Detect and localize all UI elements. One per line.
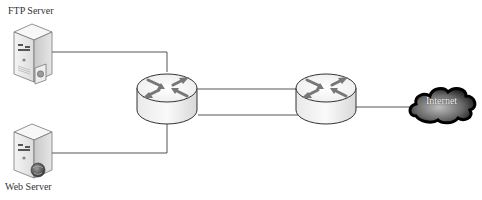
globe-icon [31, 163, 45, 177]
network-diagram [0, 0, 482, 200]
internet-label: Internet [426, 95, 457, 106]
web-server-label: Web Server [5, 181, 52, 192]
ftp-server-node [14, 24, 52, 84]
ftp-server-label: FTP Server [8, 5, 53, 16]
edges [48, 52, 412, 153]
web-server-node [14, 124, 52, 178]
router-2-node [296, 74, 356, 124]
edge-web-router1 [48, 122, 167, 153]
lock-icon [35, 64, 46, 84]
router-1-node [137, 74, 197, 124]
edge-ftp-router1 [48, 52, 167, 72]
